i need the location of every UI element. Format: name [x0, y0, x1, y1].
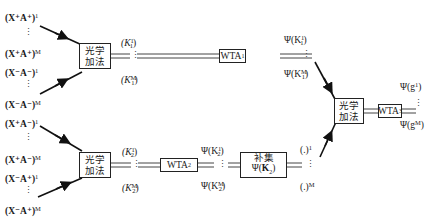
- optical-adder-bottom: 光学 加法: [79, 152, 111, 178]
- input-base: (X⁻A⁻): [5, 68, 35, 78]
- ellipsis-vertical: ⋮: [24, 135, 30, 139]
- ellipsis-vertical: ⋮: [24, 30, 30, 34]
- output-base: Ψ(g: [400, 82, 415, 92]
- wta-base: WTA: [221, 51, 242, 62]
- psi-k1-label-m: Ψ(KM1): [284, 67, 308, 82]
- complement-out-m: (.)M: [300, 180, 314, 192]
- wta1-box: WTA1: [219, 49, 246, 63]
- input-sup: 1: [35, 173, 38, 180]
- k-close: ): [136, 183, 139, 193]
- out-base: (.): [300, 182, 309, 192]
- input-label-xpam-m: (X⁺A⁻)M: [5, 153, 41, 165]
- psi-k2-label-m: Ψ(KM2): [201, 179, 225, 194]
- output-close: ): [418, 82, 421, 92]
- wta-sub: 3: [399, 106, 402, 117]
- complement-box: 补集 Ψ(K2): [240, 152, 287, 178]
- adder-label-line2: 加法: [85, 56, 105, 67]
- psi-close: ): [222, 181, 225, 191]
- input-label-xpam-1: (X⁺A⁻)1: [5, 117, 38, 129]
- ellipsis-vertical: ⋮: [414, 101, 420, 105]
- k-base: (K: [121, 75, 131, 85]
- out-base: (.): [300, 145, 309, 155]
- ellipsis-vertical: ⋮: [24, 82, 30, 86]
- ellipsis-vertical: ⋮: [24, 188, 30, 192]
- psi-k1-label-1: Ψ(K11): [284, 33, 307, 48]
- input-label-xmap-1: (X⁻A⁺)1: [5, 172, 38, 184]
- input-label-xmap-m: (X⁻A⁺)M: [5, 204, 41, 216]
- psi-close: ): [304, 35, 307, 45]
- k2-label-1: (K12): [122, 145, 137, 160]
- k-base: (K: [122, 183, 132, 193]
- input-base: (X⁻A⁺): [5, 206, 35, 216]
- input-sup: M: [35, 99, 41, 106]
- ellipsis-vertical: ⋮: [302, 52, 308, 56]
- wta-base: WTA: [378, 106, 399, 117]
- k-close: ): [135, 75, 138, 85]
- input-base: (X⁺A⁺): [5, 13, 35, 23]
- k2-label-m: (KM2): [122, 181, 139, 196]
- input-sup: M: [35, 154, 41, 161]
- psi-k2-label-1: Ψ(K12): [201, 144, 224, 159]
- adder-label-line2: 加法: [339, 111, 359, 122]
- output-label-m: Ψ(gM): [400, 118, 424, 130]
- complement-label-line1: 补集: [254, 152, 274, 163]
- psi-base: Ψ(K: [284, 69, 301, 79]
- adder-label-line1: 光学: [339, 100, 359, 111]
- adder-label-line1: 光学: [85, 154, 105, 165]
- output-base: Ψ(g: [400, 120, 415, 130]
- wta-base: WTA: [167, 160, 188, 171]
- complement-out-1: (.)1: [300, 143, 312, 155]
- input-sup: 1: [35, 118, 38, 125]
- input-base: (X⁺A⁺): [5, 49, 35, 59]
- input-base: (X⁻A⁻): [5, 100, 35, 110]
- ellipsis-vertical: ⋮: [131, 53, 137, 57]
- input-label-xpap-m: (X⁺A⁺)M: [5, 47, 41, 59]
- psi-close: ): [305, 69, 308, 79]
- complement-close: ): [272, 163, 275, 173]
- k-close: ): [133, 38, 136, 48]
- input-label-xmam-m: (X⁻A⁻)M: [5, 98, 41, 110]
- adder-label-line2: 加法: [85, 165, 105, 176]
- wta-sub: 2: [188, 160, 191, 171]
- complement-psi: Ψ(: [252, 163, 262, 173]
- input-base: (X⁻A⁺): [5, 174, 35, 184]
- psi-base: Ψ(K: [284, 35, 301, 45]
- ellipsis-vertical: ⋮: [132, 162, 138, 166]
- psi-base: Ψ(K: [201, 146, 218, 156]
- optical-adder-final: 光学 加法: [334, 98, 364, 124]
- output-close: ): [421, 120, 424, 130]
- input-label-xpap-1: (X⁺A⁺)1: [5, 11, 38, 23]
- ellipsis-vertical: ⋮: [218, 162, 224, 166]
- complement-label-line2: Ψ(K2): [252, 163, 276, 178]
- optical-adder-top: 光学 加法: [79, 43, 111, 69]
- out-sup: M: [309, 181, 315, 188]
- input-sup: 1: [35, 12, 38, 19]
- wta3-box: WTA3: [378, 104, 402, 118]
- input-sup: M: [35, 48, 41, 55]
- input-base: (X⁺A⁻): [5, 155, 35, 165]
- input-sup: M: [35, 205, 41, 212]
- wta-sub: 1: [241, 51, 244, 62]
- input-sup: 1: [35, 67, 38, 74]
- output-label-1: Ψ(g1): [400, 80, 421, 92]
- k-close: ): [134, 147, 137, 157]
- out-sup: 1: [309, 144, 312, 151]
- psi-close: ): [221, 146, 224, 156]
- k1-label-1: (K11): [121, 36, 136, 51]
- psi-base: Ψ(K: [201, 181, 218, 191]
- input-base: (X⁺A⁻): [5, 119, 35, 129]
- ellipsis-vertical: ⋮: [306, 162, 312, 166]
- k1-label-m: (KM1): [121, 73, 138, 88]
- input-label-xmam-1: (X⁻A⁻)1: [5, 66, 38, 78]
- wta2-box: WTA2: [160, 158, 198, 172]
- adder-label-line1: 光学: [85, 45, 105, 56]
